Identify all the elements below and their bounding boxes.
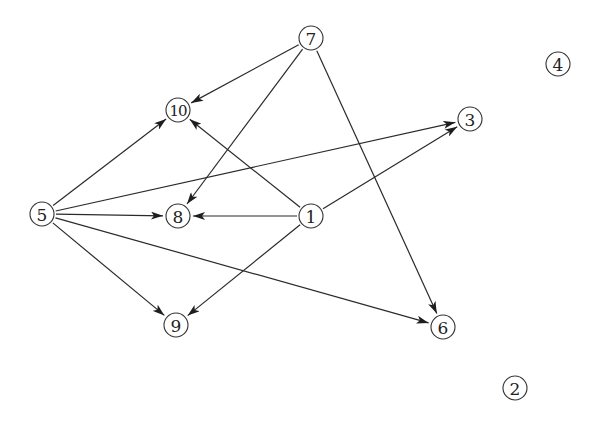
node-label: 3 [465,110,476,130]
node-label: 8 [173,207,184,227]
node-6: 6 [431,315,455,339]
edge-1-to-3 [323,127,457,209]
directed-graph: 12345678910 [0,0,595,427]
node-label: 1 [306,207,317,227]
edge-7-to-6 [317,51,437,314]
edge-5-to-9 [53,223,165,316]
edge-7-to-10 [191,45,299,103]
edge-5-to-6 [56,218,429,323]
node-label: 7 [306,29,317,49]
node-label: 2 [510,379,521,399]
node-label: 10 [169,102,187,120]
node-label: 6 [438,318,449,338]
edge-1-to-10 [190,119,300,207]
edges-layer [53,45,457,323]
node-9: 9 [164,313,188,337]
nodes-layer: 12345678910 [30,26,570,400]
node-3: 3 [458,107,482,131]
node-label: 4 [553,55,564,75]
edge-1-to-9 [188,225,300,316]
edge-5-to-3 [56,122,456,211]
node-2: 2 [503,376,527,400]
edge-7-to-8 [187,49,303,204]
node-label: 5 [37,205,48,225]
node-4: 4 [546,52,570,76]
node-10: 10 [166,98,190,122]
node-label: 9 [171,316,182,336]
node-7: 7 [299,26,323,50]
node-8: 8 [166,204,190,228]
node-1: 1 [299,204,323,228]
node-5: 5 [30,202,54,226]
edge-5-to-8 [56,214,163,216]
edge-5-to-10 [53,119,166,205]
